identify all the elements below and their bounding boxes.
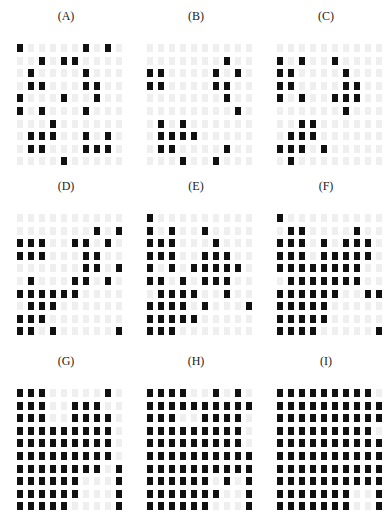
filled-cell <box>94 82 100 90</box>
panel-g: (G) <box>1 345 131 519</box>
empty-cell <box>17 302 23 310</box>
filled-cell <box>202 227 208 235</box>
filled-cell <box>365 452 371 460</box>
panel-title: (H) <box>131 354 261 369</box>
empty-cell <box>246 239 252 247</box>
empty-cell <box>72 132 78 140</box>
filled-cell <box>277 327 283 335</box>
empty-cell <box>246 157 252 165</box>
filled-cell <box>343 252 349 260</box>
filled-cell <box>169 477 175 485</box>
filled-cell <box>94 264 100 272</box>
empty-cell <box>376 302 382 310</box>
filled-cell <box>158 290 164 298</box>
filled-cell <box>17 327 23 335</box>
empty-cell <box>180 414 186 422</box>
empty-cell <box>72 315 78 323</box>
empty-cell <box>105 214 111 222</box>
panel-title: (F) <box>261 179 391 194</box>
empty-cell <box>310 57 316 65</box>
filled-cell <box>299 315 305 323</box>
filled-cell <box>94 465 100 473</box>
filled-cell <box>288 145 294 153</box>
empty-cell <box>246 427 252 435</box>
filled-cell <box>246 490 252 498</box>
empty-cell <box>105 402 111 410</box>
empty-cell <box>191 69 197 77</box>
panel-title: (E) <box>131 179 261 194</box>
empty-cell <box>158 214 164 222</box>
empty-cell <box>354 290 360 298</box>
pixel-grid <box>277 389 382 510</box>
filled-cell <box>277 427 283 435</box>
filled-cell <box>116 502 122 510</box>
empty-cell <box>365 227 371 235</box>
empty-cell <box>191 214 197 222</box>
empty-cell <box>332 69 338 77</box>
filled-cell <box>202 502 208 510</box>
filled-cell <box>365 402 371 410</box>
empty-cell <box>39 94 45 102</box>
filled-cell <box>83 452 89 460</box>
empty-cell <box>94 69 100 77</box>
empty-cell <box>83 227 89 235</box>
filled-cell <box>321 465 327 473</box>
filled-cell <box>105 44 111 52</box>
empty-cell <box>116 120 122 128</box>
filled-cell <box>28 502 34 510</box>
filled-cell <box>147 502 153 510</box>
filled-cell <box>299 252 305 260</box>
filled-cell <box>17 239 23 247</box>
filled-cell <box>213 252 219 260</box>
filled-cell <box>94 414 100 422</box>
empty-cell <box>94 57 100 65</box>
empty-cell <box>365 94 371 102</box>
filled-cell <box>28 132 34 140</box>
empty-cell <box>94 120 100 128</box>
filled-cell <box>116 465 122 473</box>
filled-cell <box>39 302 45 310</box>
filled-cell <box>39 132 45 140</box>
empty-cell <box>191 252 197 260</box>
filled-cell <box>28 439 34 447</box>
empty-cell <box>116 107 122 115</box>
filled-cell <box>235 452 241 460</box>
filled-cell <box>288 327 294 335</box>
empty-cell <box>50 44 56 52</box>
filled-cell <box>158 414 164 422</box>
filled-cell <box>343 264 349 272</box>
filled-cell <box>158 502 164 510</box>
filled-cell <box>299 389 305 397</box>
filled-cell <box>105 389 111 397</box>
empty-cell <box>72 157 78 165</box>
filled-cell <box>169 490 175 498</box>
filled-cell <box>180 389 186 397</box>
filled-cell <box>61 465 67 473</box>
panel-title: (I) <box>261 354 391 369</box>
empty-cell <box>246 315 252 323</box>
empty-cell <box>332 239 338 247</box>
empty-cell <box>61 132 67 140</box>
empty-cell <box>28 94 34 102</box>
filled-cell <box>288 132 294 140</box>
empty-cell <box>202 145 208 153</box>
filled-cell <box>83 252 89 260</box>
empty-cell <box>376 107 382 115</box>
empty-cell <box>277 132 283 140</box>
filled-cell <box>299 490 305 498</box>
filled-cell <box>332 452 338 460</box>
empty-cell <box>50 94 56 102</box>
empty-cell <box>180 69 186 77</box>
empty-cell <box>332 82 338 90</box>
filled-cell <box>191 439 197 447</box>
panel-h: (H) <box>131 345 261 519</box>
filled-cell <box>224 427 230 435</box>
filled-cell <box>105 427 111 435</box>
empty-cell <box>354 302 360 310</box>
filled-cell <box>354 465 360 473</box>
filled-cell <box>191 132 197 140</box>
filled-cell <box>72 290 78 298</box>
filled-cell <box>50 302 56 310</box>
filled-cell <box>235 439 241 447</box>
filled-cell <box>39 427 45 435</box>
